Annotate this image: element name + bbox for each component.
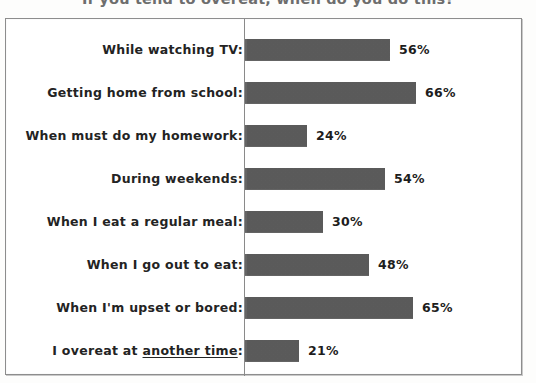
bar-row: During weekends:54% [6,168,521,190]
bar-value-label: 24% [316,125,347,147]
bar-row: Getting home from school:66% [6,82,521,104]
chart-page: If you tend to overeat, when do you do t… [0,0,536,383]
category-axis-line [244,19,245,376]
bar [245,254,369,276]
bar-value-label: 48% [378,254,409,276]
bar-row-label: While watching TV: [102,39,243,61]
bar [245,125,307,147]
bar-row-label: When I'm upset or bored: [56,297,243,319]
bar-row-label: Getting home from school: [47,82,243,104]
bar-row-label: When I eat a regular meal: [47,211,243,233]
bar-row-label: During weekends: [111,168,243,190]
bar-row-label-underlined: another time [143,343,238,358]
bar-row: When I'm upset or bored:65% [6,297,521,319]
plot-area: While watching TV:56%Getting home from s… [6,19,521,374]
bar [245,297,413,319]
bar-value-label: 21% [308,340,339,362]
bar-value-label: 56% [399,39,430,61]
bar-value-label: 54% [394,168,425,190]
bar-row: When I go out to eat:48% [6,254,521,276]
chart-title: If you tend to overeat, when do you do t… [0,0,536,7]
bar [245,211,323,233]
bar-value-label: 30% [332,211,363,233]
bar-row: When must do my homework:24% [6,125,521,147]
bar-row-label: When I go out to eat: [87,254,243,276]
bar-value-label: 66% [425,82,456,104]
bar-value-label: 65% [422,297,453,319]
bar [245,39,390,61]
bar [245,168,385,190]
bar-row: When I eat a regular meal:30% [6,211,521,233]
bar-row: While watching TV:56% [6,39,521,61]
bar-row: I overeat at another time:21% [6,340,521,362]
bar-row-label: When must do my homework: [25,125,243,147]
bar [245,82,416,104]
bar [245,340,299,362]
plot-frame: While watching TV:56%Getting home from s… [5,18,522,375]
bar-row-label: I overeat at another time: [52,340,243,362]
